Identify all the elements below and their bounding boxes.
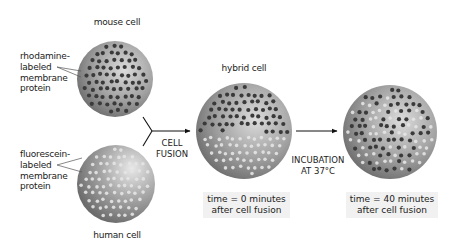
- human-cell: [77, 145, 155, 223]
- cell-membrane: [196, 83, 292, 179]
- mixed-hybrid-cell: [343, 85, 437, 179]
- cell-fusion-label-line-2: FUSION: [151, 149, 193, 160]
- fluorescein-label: fluorescein- labeled membrane protein: [20, 149, 70, 192]
- fluorescein-label-line-3: membrane: [20, 171, 70, 182]
- caption-time-40-line-2: after cell fusion: [346, 205, 438, 216]
- cell-fusion-label-line-1: CELL: [151, 138, 193, 149]
- fluorescein-label-line-1: fluorescein-: [20, 149, 70, 160]
- mouse-cell: [77, 41, 153, 117]
- fluorescein-label-line-2: labeled: [20, 160, 70, 171]
- rhodamine-label-line-2: labeled: [20, 62, 70, 73]
- caption-time-40-line-1: time = 40 minutes: [346, 194, 438, 205]
- caption-time-0: time = 0 minutes after cell fusion: [203, 192, 290, 218]
- rhodamine-label-line-1: rhodamine-: [20, 51, 70, 62]
- rhodamine-label-line-3: membrane: [20, 73, 70, 84]
- cell-membrane: [77, 145, 155, 223]
- hybrid-cell-label: hybrid cell: [214, 63, 274, 74]
- hybrid-cell: [196, 83, 292, 179]
- incubation-label-line-2: AT 37°C: [288, 166, 348, 177]
- incubation-label-line-1: INCUBATION: [288, 155, 348, 166]
- cell-membrane: [77, 41, 153, 117]
- rhodamine-label: rhodamine- labeled membrane protein: [20, 51, 70, 94]
- caption-time-0-line-1: time = 0 minutes: [203, 194, 290, 205]
- mouse-cell-label: mouse cell: [89, 17, 145, 28]
- cell-fusion-label: CELL FUSION: [151, 138, 193, 160]
- rhodamine-label-line-4: protein: [20, 83, 70, 94]
- caption-time-40: time = 40 minutes after cell fusion: [346, 192, 438, 218]
- incubation-label: INCUBATION AT 37°C: [288, 155, 348, 177]
- caption-time-0-line-2: after cell fusion: [203, 205, 290, 216]
- fluorescein-label-line-4: protein: [20, 181, 70, 192]
- human-cell-label: human cell: [89, 230, 145, 241]
